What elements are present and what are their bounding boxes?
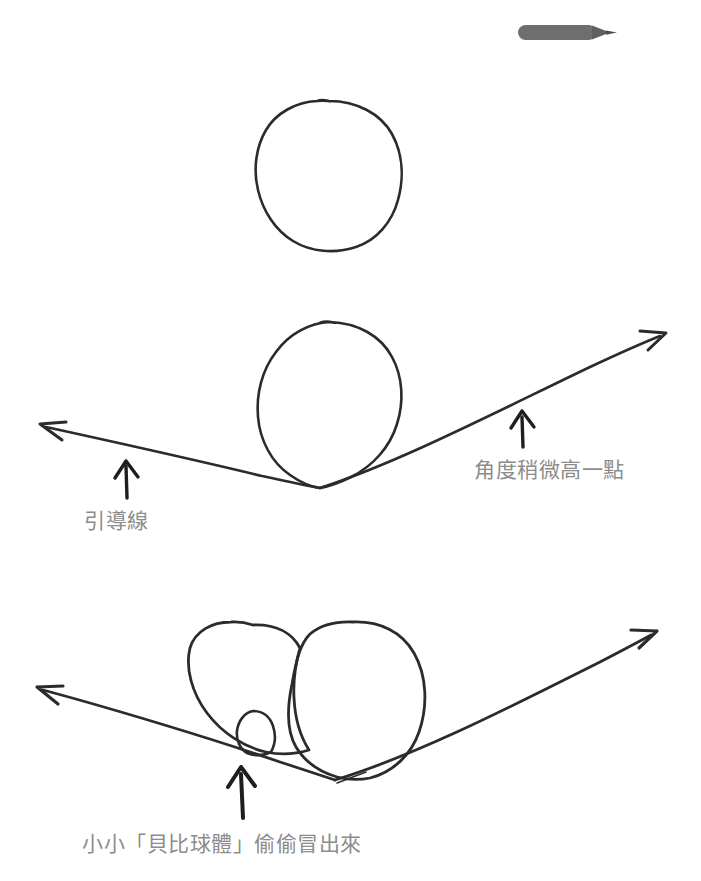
step-3-two-circles <box>37 622 657 818</box>
guide-line-left-segment <box>46 427 320 488</box>
pointer-up-babyball-icon <box>228 767 255 818</box>
step-1-single-circle <box>256 100 402 251</box>
pointer-up-right-icon <box>511 411 534 447</box>
arrow-right-head <box>640 331 666 350</box>
circle-outline <box>256 101 402 251</box>
circle-outline <box>258 322 402 488</box>
circle-outline-front <box>288 622 425 779</box>
guide-line-right-segment-bottom <box>335 635 651 780</box>
drawing-artboard <box>0 0 701 881</box>
pointer-up-left-icon <box>115 461 138 498</box>
caption-angle: 角度稍微高一點 <box>474 457 625 482</box>
pencil-icon <box>518 25 617 40</box>
caption-babyball: 小小「貝比球體」偷偷冒出來 <box>82 831 362 856</box>
tutorial-sheet: 引導線 角度稍微高一點 小小「貝比球體」偷偷冒出來 <box>0 0 701 881</box>
caption-guideline: 引導線 <box>84 508 149 533</box>
